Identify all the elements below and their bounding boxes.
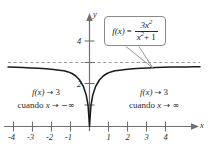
annotation-right-arrow-2: → [163,101,170,110]
annotation-left-limit-2: −∞ [61,101,74,110]
annotation-right-word: cuando [129,100,155,110]
x-tick-label-minus2: -2 [46,133,53,142]
annotation-right-function: f(x) [140,87,153,97]
annotation-left-word: cuando [18,100,44,110]
y-axis-label: y [93,10,97,19]
annotation-right-variable: x [157,100,161,110]
formula-equals: = [127,26,132,36]
x-tick-label-minus4: -4 [8,133,15,142]
formula-numerator-exponent: 2 [149,18,152,25]
x-tick-label-3: 3 [145,133,149,142]
formula-callout: f(x) = 3x2 x2+ 1 [104,16,166,46]
x-tick-label-2: 2 [126,133,130,142]
annotation-left-line1: f(x) → 3 [6,86,86,99]
annotation-right-limit-2: ∞ [172,101,179,110]
annotation-right-arrow-1: → [155,88,162,97]
annotation-right-line2: cuando x → ∞ [112,99,196,112]
x-axis-arrowhead [191,123,199,129]
annotation-left: f(x) → 3 cuando x → −∞ [6,86,86,112]
annotation-left-function: f(x) [32,87,45,97]
x-tick-label-minus3: -3 [27,133,34,142]
y-tick-label-4: 4 [77,37,81,46]
formula-denominator: x2+ 1 [135,32,158,42]
x-tick-label-minus1: -1 [65,133,72,142]
x-axis-label: x [200,121,204,130]
figure-container: 4 2 -4 -3 -2 -1 1 2 3 4 x y f(x) → 3 cua… [0,0,208,146]
annotation-left-arrow-2: → [52,101,59,110]
annotation-left-line2: cuando x → −∞ [6,99,86,112]
x-tick-label-4: 4 [164,133,168,142]
annotation-right-limit-1: 3 [164,87,169,97]
annotation-right-line1: f(x) → 3 [112,86,196,99]
formula: f(x) = 3x2 x2+ 1 [112,20,158,42]
callout-pointer [126,47,153,69]
formula-numerator: 3x2 [138,20,154,30]
annotation-left-limit-1: 3 [56,87,61,97]
annotation-left-variable: x [46,100,50,110]
annotation-right: f(x) → 3 cuando x → ∞ [112,86,196,112]
x-tick-label-1: 1 [107,133,111,142]
formula-fraction: 3x2 x2+ 1 [135,20,158,42]
annotation-left-arrow-1: → [47,88,54,97]
formula-lhs: f(x) [112,26,125,36]
formula-denominator-plus: + 1 [144,32,156,42]
y-axis-arrowhead [86,13,92,21]
